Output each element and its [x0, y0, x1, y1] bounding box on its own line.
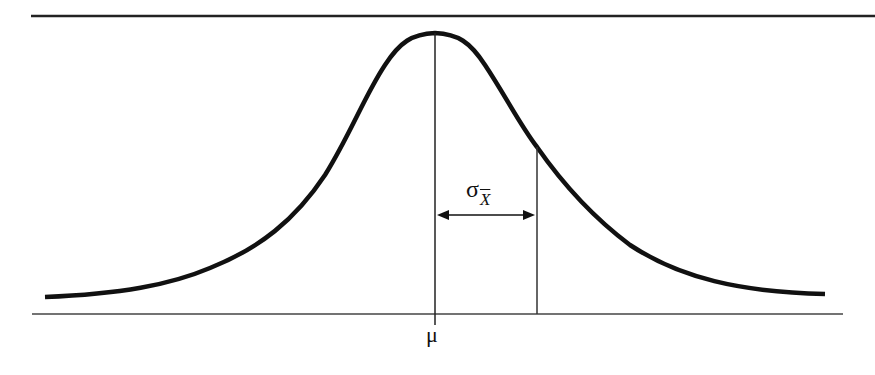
- x-bar-subscript: X: [480, 190, 490, 209]
- std-error-arrow: [437, 210, 535, 220]
- sigma-symbol: σ: [466, 176, 479, 202]
- arrowhead-left-icon: [437, 210, 449, 220]
- std-error-label: σX: [466, 176, 489, 203]
- mean-label: μ: [426, 322, 438, 348]
- arrowhead-right-icon: [523, 210, 535, 220]
- bell-curve-diagram: [0, 0, 875, 375]
